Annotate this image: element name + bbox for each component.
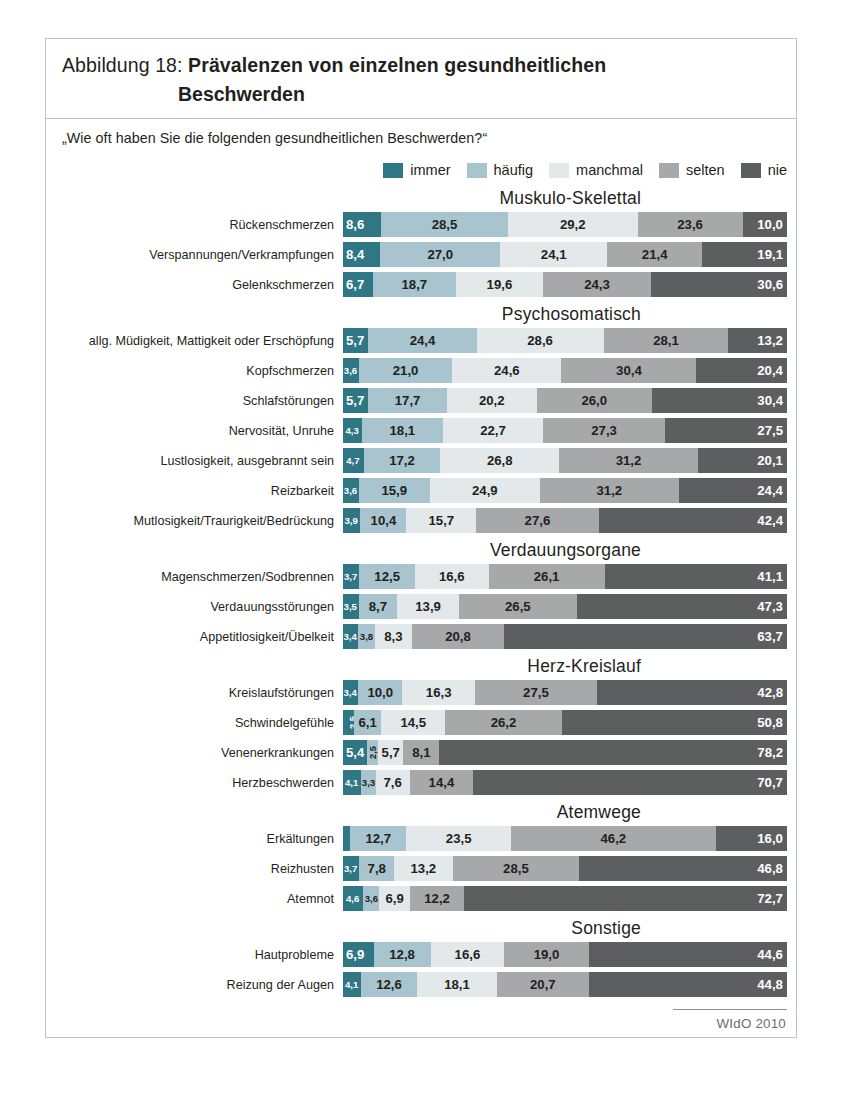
bar-segment-haeufig: 7,8 bbox=[359, 856, 394, 881]
legend-label-immer: immer bbox=[410, 162, 450, 178]
bar-segment-selten: 28,1 bbox=[604, 328, 729, 353]
bar-segment-nie: 16,0 bbox=[716, 826, 787, 851]
row-label: allg. Müdigkeit, Mattigkeit oder Erschöp… bbox=[46, 334, 343, 348]
bar-segment-nie: 27,5 bbox=[665, 418, 787, 443]
stacked-bar: 3,615,924,931,224,4 bbox=[343, 478, 787, 503]
stacked-bar-chart: Muskulo-SkelettalRückenschmerzen8,628,52… bbox=[46, 188, 796, 998]
row-label: Kopfschmerzen bbox=[46, 364, 343, 378]
bar-segment-haeufig: 10,0 bbox=[358, 680, 402, 705]
bar-segment-haeufig: 10,4 bbox=[360, 508, 406, 533]
bar-segment-haeufig: 18,7 bbox=[373, 272, 456, 297]
bar-segment-nie: 42,4 bbox=[599, 508, 787, 533]
bar-segment-haeufig: 12,7 bbox=[350, 826, 406, 851]
stacked-bar: 3,712,516,626,141,1 bbox=[343, 564, 787, 589]
legend-swatch-immer bbox=[383, 163, 403, 178]
stacked-bar: 8,427,024,121,419,1 bbox=[343, 242, 787, 267]
bar-segment-manchmal: 22,7 bbox=[443, 418, 544, 443]
bar-segment-immer: 4,6 bbox=[343, 886, 363, 911]
bar-segment-nie: 70,7 bbox=[473, 770, 787, 795]
bar-segment-nie: 63,7 bbox=[504, 624, 787, 649]
bar-segment-selten: 46,2 bbox=[511, 826, 716, 851]
bar-segment-haeufig: 12,6 bbox=[361, 972, 417, 997]
bar-segment-haeufig: 2,5 bbox=[367, 740, 378, 765]
stacked-bar: 6,912,816,619,044,6 bbox=[343, 942, 787, 967]
bar-segment-manchmal: 19,6 bbox=[456, 272, 543, 297]
group-heading: Psychosomatisch bbox=[46, 304, 787, 325]
bar-segment-manchmal: 6,9 bbox=[379, 886, 410, 911]
stacked-bar: 4,318,122,727,327,5 bbox=[343, 418, 787, 443]
bar-segment-manchmal: 16,6 bbox=[415, 564, 489, 589]
bar-segment-haeufig: 3,3 bbox=[361, 770, 376, 795]
chart-row: Nervosität, Unruhe4,318,122,727,327,5 bbox=[46, 417, 787, 444]
stacked-bar: 1,612,723,546,216,0 bbox=[343, 826, 787, 851]
bar-segment-selten: 20,8 bbox=[412, 624, 504, 649]
bar-segment-immer: 5,7 bbox=[343, 328, 368, 353]
bar-segment-selten: 20,7 bbox=[497, 972, 589, 997]
legend-item-manchmal: manchmal bbox=[549, 162, 643, 178]
bar-segment-manchmal: 18,1 bbox=[417, 972, 497, 997]
stacked-bar: 5,724,428,628,113,2 bbox=[343, 328, 787, 353]
bar-segment-selten: 26,5 bbox=[459, 594, 577, 619]
bar-segment-selten: 27,3 bbox=[543, 418, 664, 443]
legend-item-haeufig: häufig bbox=[467, 162, 534, 178]
bar-segment-nie: 20,4 bbox=[696, 358, 787, 383]
chart-row: Atemnot4,63,66,912,272,7 bbox=[46, 885, 787, 912]
bar-segment-immer: 3,4 bbox=[343, 680, 358, 705]
row-label: Herzbeschwerden bbox=[46, 776, 343, 790]
bar-segment-selten: 31,2 bbox=[559, 448, 698, 473]
segment-value: 2,5 bbox=[347, 716, 354, 729]
bar-segment-nie: 42,8 bbox=[597, 680, 787, 705]
row-label: Appetitlosigkeit/Übelkeit bbox=[46, 630, 343, 644]
bar-segment-selten: 27,5 bbox=[475, 680, 597, 705]
bar-segment-haeufig: 12,5 bbox=[359, 564, 415, 589]
bar-segment-selten: 26,1 bbox=[489, 564, 605, 589]
stacked-bar: 4,13,37,614,470,7 bbox=[343, 770, 787, 795]
bar-segment-manchmal: 23,5 bbox=[406, 826, 510, 851]
bar-segment-manchmal: 5,7 bbox=[378, 740, 403, 765]
legend-swatch-nie bbox=[741, 163, 761, 178]
chart-row: Hautprobleme6,912,816,619,044,6 bbox=[46, 941, 787, 968]
stacked-bar: 4,717,226,831,220,1 bbox=[343, 448, 787, 473]
bar-segment-immer: 5,4 bbox=[343, 740, 367, 765]
source-label: WIdO 2010 bbox=[716, 1016, 786, 1031]
group-heading: Atemwege bbox=[46, 802, 787, 823]
row-label: Verspannungen/Verkrampfungen bbox=[46, 248, 343, 262]
bar-segment-immer: 4,1 bbox=[343, 972, 361, 997]
chart-row: Rückenschmerzen8,628,529,223,610,0 bbox=[46, 211, 787, 238]
bar-segment-manchmal: 20,2 bbox=[447, 388, 537, 413]
bar-segment-selten: 28,5 bbox=[453, 856, 580, 881]
row-label: Reizung der Augen bbox=[46, 978, 343, 992]
bar-segment-haeufig: 3,6 bbox=[363, 886, 379, 911]
bar-segment-haeufig: 17,2 bbox=[364, 448, 440, 473]
stacked-bar: 8,628,529,223,610,0 bbox=[343, 212, 787, 237]
bar-segment-immer: 4,7 bbox=[343, 448, 364, 473]
legend-label-manchmal: manchmal bbox=[576, 162, 643, 178]
bar-segment-selten: 27,6 bbox=[476, 508, 599, 533]
figure-title-text: Prävalenzen von einzelnen gesundheitlich… bbox=[188, 54, 606, 76]
group-heading: Sonstige bbox=[46, 918, 787, 939]
stacked-bar: 3,43,88,320,863,7 bbox=[343, 624, 787, 649]
row-label: Lustlosigkeit, ausgebrannt sein bbox=[46, 454, 343, 468]
bar-segment-haeufig: 18,1 bbox=[362, 418, 442, 443]
bar-segment-manchmal: 13,2 bbox=[394, 856, 453, 881]
chart-row: Kreislaufstörungen3,410,016,327,542,8 bbox=[46, 679, 787, 706]
stacked-bar: 3,77,813,228,546,8 bbox=[343, 856, 787, 881]
legend-item-immer: immer bbox=[383, 162, 450, 178]
bar-segment-selten: 14,4 bbox=[410, 770, 474, 795]
bar-segment-haeufig: 12,8 bbox=[374, 942, 431, 967]
stacked-bar: 4,63,66,912,272,7 bbox=[343, 886, 787, 911]
bar-segment-immer: 3,6 bbox=[343, 478, 359, 503]
row-label: Gelenkschmerzen bbox=[46, 278, 343, 292]
row-label: Venenerkrankungen bbox=[46, 746, 343, 760]
stacked-bar: 3,910,415,727,642,4 bbox=[343, 508, 787, 533]
chart-row: Herzbeschwerden4,13,37,614,470,7 bbox=[46, 769, 787, 796]
bar-segment-selten: 24,3 bbox=[543, 272, 651, 297]
row-label: Magenschmerzen/Sodbrennen bbox=[46, 570, 343, 584]
bar-segment-nie: 19,1 bbox=[702, 242, 787, 267]
chart-row: Verdauungsstörungen3,58,713,926,547,3 bbox=[46, 593, 787, 620]
bar-segment-manchmal: 16,3 bbox=[402, 680, 474, 705]
chart-row: Schlafstörungen5,717,720,226,030,4 bbox=[46, 387, 787, 414]
bar-segment-nie: 24,4 bbox=[679, 478, 787, 503]
row-label: Mutlosigkeit/Traurigkeit/Bedrückung bbox=[46, 514, 343, 528]
chart-row: Verspannungen/Verkrampfungen8,427,024,12… bbox=[46, 241, 787, 268]
